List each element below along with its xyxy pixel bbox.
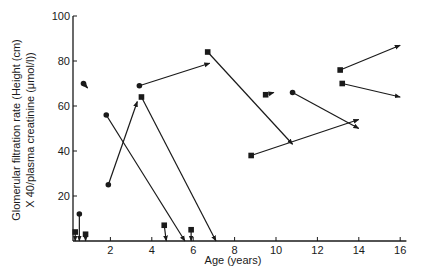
gfr-chart: Glomerular filtration rate (Height (cm) … <box>0 0 427 269</box>
data-segments <box>72 45 400 241</box>
trend-line <box>251 120 359 156</box>
patient-segment <box>339 81 400 97</box>
axes: 20406080100246810121416 <box>52 10 407 256</box>
square-marker-icon <box>161 222 167 228</box>
square-marker-icon <box>139 94 145 100</box>
square-marker-icon <box>248 153 254 159</box>
patient-segment <box>77 211 83 241</box>
trend-line <box>141 97 216 241</box>
patient-segment <box>103 112 184 241</box>
circle-marker-icon <box>290 90 296 96</box>
trend-line <box>293 93 359 129</box>
circle-marker-icon <box>77 211 83 217</box>
square-marker-icon <box>205 49 211 55</box>
y-tick-label: 20 <box>58 190 70 202</box>
y-tick-label: 60 <box>58 100 70 112</box>
x-axis-title: Age (years) <box>205 254 262 266</box>
circle-marker-icon <box>137 83 143 89</box>
square-marker-icon <box>72 229 78 235</box>
y-tick-label: 100 <box>52 10 70 22</box>
patient-segment <box>290 90 359 129</box>
patient-segment <box>81 81 88 88</box>
patient-segment <box>248 120 358 159</box>
patient-segment <box>205 49 293 144</box>
square-marker-icon <box>339 81 345 87</box>
x-tick-label: 2 <box>107 244 113 256</box>
x-tick-label: 14 <box>353 244 365 256</box>
x-tick-label: 6 <box>190 244 196 256</box>
patient-segment <box>263 92 274 98</box>
y-tick-label: 80 <box>58 55 70 67</box>
circle-marker-icon <box>81 81 87 87</box>
patient-segment <box>139 94 216 241</box>
patient-segment <box>337 45 400 73</box>
trend-line <box>342 84 400 98</box>
trend-line <box>108 102 137 185</box>
x-tick-label: 12 <box>311 244 323 256</box>
y-axis-title: Glomerular filtration rate (Height (cm) … <box>10 39 36 221</box>
circle-marker-icon <box>103 112 109 118</box>
circle-marker-icon <box>106 182 112 188</box>
patient-segment <box>106 102 138 188</box>
trend-line <box>106 115 185 241</box>
x-tick-label: 16 <box>394 244 406 256</box>
x-tick-label: 10 <box>270 244 282 256</box>
x-tick-label: 4 <box>149 244 155 256</box>
y-axis-title-line2: X 40/plasma creatinine (μmol/l)) <box>24 52 36 208</box>
patient-segment <box>137 63 210 88</box>
square-marker-icon <box>188 227 194 233</box>
trend-line <box>208 52 293 144</box>
patient-segment <box>83 231 89 241</box>
patient-segment <box>161 222 167 241</box>
trend-line <box>340 45 400 70</box>
y-axis-title-line1: Glomerular filtration rate (Height (cm) <box>10 39 22 221</box>
y-tick-label: 40 <box>58 145 70 157</box>
square-marker-icon <box>263 92 269 98</box>
trend-line <box>139 63 209 86</box>
square-marker-icon <box>337 67 343 73</box>
square-marker-icon <box>83 231 89 237</box>
